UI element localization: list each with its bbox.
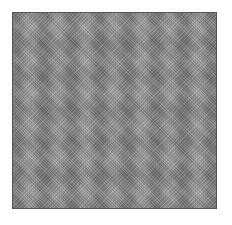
texture-image [12,12,217,209]
texture-noise [13,13,216,208]
